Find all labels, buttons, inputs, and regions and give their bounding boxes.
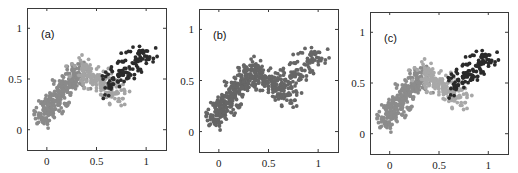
data-point	[72, 84, 76, 88]
data-point	[118, 85, 122, 89]
data-point	[48, 91, 52, 95]
data-point	[305, 74, 309, 78]
data-point	[60, 74, 64, 78]
data-point	[249, 57, 253, 61]
data-point	[101, 97, 105, 101]
data-point	[116, 61, 120, 65]
data-point	[255, 79, 259, 83]
data-point	[232, 76, 236, 80]
x-tick-label: 1	[143, 155, 149, 167]
data-point	[295, 104, 299, 108]
data-point	[45, 119, 49, 123]
data-point	[465, 71, 469, 75]
data-point	[384, 124, 388, 128]
y-tick-label: 1	[189, 23, 195, 35]
data-point	[52, 82, 56, 86]
data-point	[223, 80, 227, 84]
data-point	[266, 84, 270, 88]
data-point	[404, 114, 408, 118]
data-point	[209, 122, 213, 126]
data-point	[387, 98, 391, 102]
data-point	[51, 92, 55, 96]
data-point	[479, 68, 483, 72]
data-point	[296, 60, 300, 64]
data-point	[207, 108, 211, 112]
data-point	[242, 63, 246, 67]
data-point	[108, 102, 112, 106]
data-point	[251, 75, 255, 79]
data-point	[237, 106, 241, 110]
data-point	[69, 93, 73, 97]
x-tick-label: 1	[486, 159, 492, 171]
data-point	[253, 84, 257, 88]
x-tick-label: 0	[44, 155, 50, 167]
data-point	[34, 110, 38, 114]
data-point	[400, 88, 404, 92]
data-point	[37, 120, 41, 124]
data-point	[426, 81, 430, 85]
data-point	[151, 60, 155, 64]
data-point	[99, 89, 103, 93]
data-point	[64, 64, 68, 68]
data-point	[206, 112, 210, 116]
data-point	[37, 99, 41, 103]
data-point	[39, 112, 43, 116]
data-point	[297, 78, 301, 82]
data-point	[119, 51, 123, 55]
data-point	[131, 45, 135, 49]
data-point	[283, 78, 287, 82]
data-point	[386, 106, 390, 110]
data-point	[101, 77, 105, 81]
data-point	[427, 66, 431, 70]
data-point	[244, 85, 248, 89]
data-point	[426, 71, 430, 75]
data-point	[391, 95, 395, 99]
scatter-plot: 00.5100.51(c)	[340, 12, 518, 173]
data-point	[470, 94, 474, 98]
scatter-plot: 00.5100.51(a)	[0, 8, 176, 173]
data-point	[455, 68, 459, 72]
data-point	[84, 67, 88, 71]
data-point	[376, 114, 380, 118]
data-point	[43, 102, 47, 106]
data-point	[437, 71, 441, 75]
data-point	[233, 90, 237, 94]
data-point	[46, 111, 50, 115]
data-point	[395, 120, 399, 124]
data-point	[462, 86, 466, 90]
data-point	[208, 118, 212, 122]
data-point	[299, 73, 303, 77]
data-point	[132, 77, 136, 81]
data-point	[86, 87, 90, 91]
data-point	[241, 95, 245, 99]
data-point	[295, 91, 299, 95]
data-point	[275, 88, 279, 92]
data-point	[80, 53, 84, 57]
x-tick-label: 0.5	[90, 155, 104, 167]
data-point	[474, 64, 478, 68]
data-point	[413, 66, 417, 70]
data-point	[59, 106, 63, 110]
data-point	[450, 72, 454, 76]
data-point	[40, 115, 44, 119]
data-point	[410, 88, 414, 92]
data-point	[235, 98, 239, 102]
data-point	[67, 101, 71, 105]
data-point	[232, 83, 236, 87]
data-point	[248, 63, 252, 67]
data-point	[442, 93, 446, 97]
y-tick-label: 0	[360, 128, 366, 140]
data-point	[271, 90, 275, 94]
data-point	[47, 108, 51, 112]
data-point	[94, 82, 98, 86]
data-point	[35, 106, 39, 110]
data-point	[377, 110, 381, 114]
data-point	[259, 59, 263, 63]
data-point	[110, 83, 114, 87]
data-point	[110, 70, 114, 74]
data-point	[127, 72, 131, 76]
data-point	[256, 64, 260, 68]
data-point	[487, 64, 491, 68]
data-point	[104, 70, 108, 74]
data-point	[462, 108, 466, 112]
